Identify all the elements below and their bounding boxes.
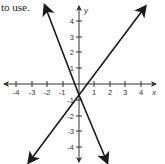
x-tick-label: 1: [92, 88, 96, 97]
y-tick-label: 3: [70, 33, 74, 42]
x-tick-label: 3: [123, 88, 127, 97]
y-tick-label: -3: [67, 127, 74, 136]
x-tick-label: 2: [108, 88, 112, 97]
line-positive-slope: [79, 7, 145, 95]
y-tick-label: -2: [67, 112, 74, 121]
coordinate-plane: -4 -3 -2 -1 1 2 3 4 x 4 3 2 1 -1 -2 -3 -…: [0, 0, 165, 164]
x-tick-label: -2: [44, 88, 51, 97]
x-tick-label: -1: [59, 88, 66, 97]
x-tick-label: -4: [13, 88, 20, 97]
y-tick-label: -4: [67, 143, 74, 152]
line-negative-slope: [79, 95, 107, 162]
x-tick-label: 4: [139, 88, 143, 97]
y-tick-label: 2: [70, 48, 74, 57]
y-axis-label: y: [83, 6, 89, 15]
y-tick-label: 4: [70, 17, 74, 26]
x-tick-label: -3: [29, 88, 36, 97]
x-axis-label: x: [151, 88, 157, 97]
